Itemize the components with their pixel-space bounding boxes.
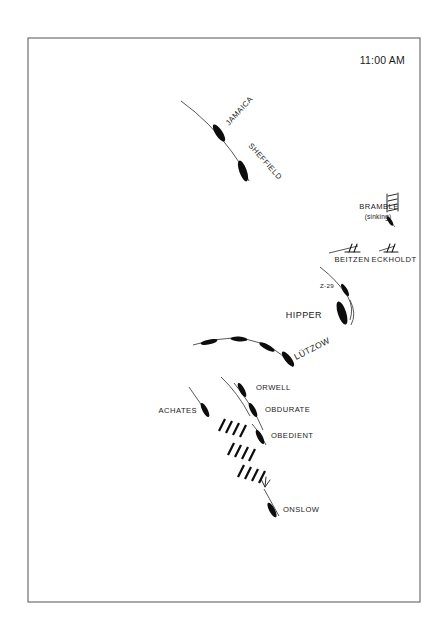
label-lutzow: LÜTZOW	[292, 335, 332, 362]
hull-z29	[340, 283, 351, 297]
label-obdurate: OBDURATE	[265, 405, 310, 414]
label-bramble: BRAMBLE	[359, 202, 398, 211]
hull-hipper	[334, 300, 349, 325]
label-onslow: ONSLOW	[283, 505, 320, 514]
label-achates: ACHATES	[159, 406, 197, 415]
label-eckholdt: ECKHOLDT	[372, 255, 417, 264]
label-z29: Z-29	[320, 282, 334, 289]
map-canvas: 11:00 AM	[0, 0, 443, 628]
label-orwell: ORWELL	[256, 383, 291, 392]
track-lines-group	[181, 101, 395, 516]
label-bramble-status: (sinking)	[365, 213, 392, 221]
smoke-screen-group	[219, 419, 265, 483]
smoke-screen-group-3	[238, 465, 265, 483]
label-sheffield: SHEFFIELD	[247, 141, 284, 181]
hull-obdurate	[247, 402, 259, 418]
beitzen-ship-symbol	[345, 244, 360, 252]
label-obedient: OBEDIENT	[271, 431, 313, 440]
label-jamaica: JAMAICA	[224, 94, 255, 127]
naval-battle-map: 11:00 AM	[0, 0, 443, 628]
smoke-screen-group-2	[228, 443, 255, 461]
hull-obedient	[254, 429, 266, 445]
label-beitzen: BEITZEN	[334, 255, 369, 264]
ship-hulls-group	[199, 123, 394, 519]
label-hipper: HIPPER	[286, 310, 322, 320]
hull-jamaica	[211, 123, 228, 144]
ship-labels-group: JAMAICA SHEFFIELD BRAMBLE (sinking) BEIT…	[159, 94, 417, 514]
smoke-screen-group-1	[219, 419, 246, 437]
hull-lutzow-mark-2	[230, 336, 247, 342]
hull-achates	[199, 402, 211, 418]
eckholdt-ship-symbol	[384, 244, 398, 252]
time-label: 11:00 AM	[360, 54, 405, 66]
hull-lutzow-mark-3	[258, 341, 276, 354]
